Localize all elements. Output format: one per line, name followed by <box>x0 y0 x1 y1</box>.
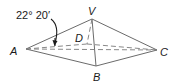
hidden-AC <box>26 49 157 50</box>
vertex-label-B: B <box>93 71 100 83</box>
edge-VB <box>92 19 96 66</box>
edge-VC <box>92 19 157 50</box>
vertex-label-C: C <box>160 46 168 58</box>
hidden-VD <box>87 19 92 44</box>
vertex-label-A: A <box>9 45 17 57</box>
edge-BC <box>96 50 157 66</box>
angle-label: 22° 20′ <box>16 9 50 21</box>
edge-AB <box>26 49 96 66</box>
vertex-label-D: D <box>75 32 83 44</box>
angle-arrow-icon <box>51 19 57 43</box>
vertex-label-V: V <box>88 5 97 17</box>
pyramid-diagram: 22° 20′ A V D B C <box>0 0 183 83</box>
